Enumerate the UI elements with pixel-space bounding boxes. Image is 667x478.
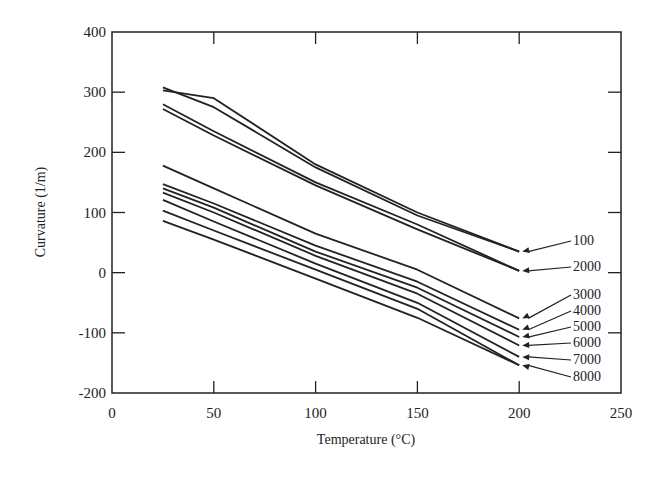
- arrowhead-icon: [522, 354, 529, 360]
- x-tick-label: 100: [304, 405, 327, 421]
- arrowhead-icon: [522, 364, 530, 370]
- axis-ticks: 050100150200250-200-1000100200300400: [79, 24, 633, 421]
- x-tick-label: 200: [508, 405, 531, 421]
- y-tick-label: -100: [79, 325, 107, 341]
- y-tick-label: 0: [99, 265, 107, 281]
- y-tick-label: -200: [79, 385, 107, 401]
- series-line-100: [163, 90, 519, 251]
- series-line-100b: [163, 87, 519, 251]
- x-tick-label: 150: [406, 405, 429, 421]
- annotation-arrow: [528, 343, 571, 345]
- arrowhead-icon: [522, 333, 530, 339]
- annotation-arrow: [528, 327, 571, 337]
- annotation-arrow: [528, 357, 571, 360]
- series-line-3000: [163, 166, 519, 319]
- arrowhead-icon: [522, 325, 530, 331]
- series-label: 7000: [573, 352, 601, 367]
- annotation-arrow: [528, 365, 571, 377]
- series-line-2000: [163, 104, 519, 271]
- arrowhead-icon: [522, 267, 529, 273]
- plot-frame: [112, 32, 621, 393]
- y-axis-title: Curvature (1/m): [33, 166, 49, 257]
- x-tick-label: 50: [206, 405, 221, 421]
- series-label: 100: [573, 233, 594, 248]
- series-label: 3000: [573, 287, 601, 302]
- arrowhead-icon: [522, 247, 530, 253]
- plot-border: [112, 32, 621, 393]
- annotation-arrow: [528, 311, 571, 330]
- series-label: 4000: [573, 303, 601, 318]
- arrowhead-icon: [522, 313, 530, 319]
- series-line-5000: [163, 188, 519, 337]
- x-axis-title: Temperature (°C): [317, 432, 416, 448]
- annotation-arrow: [528, 241, 571, 252]
- series-line-4000: [163, 184, 519, 330]
- annotation-arrow: [528, 295, 571, 318]
- y-tick-label: 200: [84, 144, 107, 160]
- data-series: [163, 87, 519, 365]
- x-tick-label: 250: [610, 405, 633, 421]
- y-tick-label: 300: [84, 84, 107, 100]
- x-tick-label: 0: [108, 405, 116, 421]
- series-labels: 1002000300040005000600070008000: [522, 233, 601, 384]
- y-tick-label: 400: [84, 24, 107, 40]
- y-tick-label: 100: [84, 205, 107, 221]
- series-label: 5000: [573, 319, 601, 334]
- chart: 050100150200250-200-1000100200300400 100…: [0, 0, 667, 478]
- series-line-7000: [163, 200, 519, 357]
- series-label: 2000: [573, 259, 601, 274]
- arrowhead-icon: [522, 342, 529, 348]
- series-line-6000: [163, 193, 519, 346]
- annotation-arrow: [528, 267, 571, 271]
- series-label: 8000: [573, 369, 601, 384]
- series-label: 6000: [573, 335, 601, 350]
